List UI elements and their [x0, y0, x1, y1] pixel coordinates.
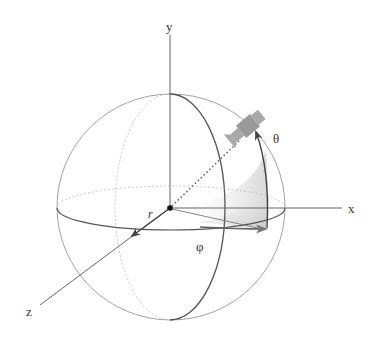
origin-point — [167, 205, 173, 211]
back-meridian — [115, 94, 170, 320]
z-axis-label: z — [26, 304, 32, 319]
radius-label: r — [148, 207, 153, 221]
satellite-icon — [224, 108, 268, 149]
y-axis-label: y — [166, 19, 173, 34]
x-axis-label: x — [348, 201, 355, 216]
spherical-coordinates-diagram: y x z r φ θ — [0, 0, 372, 340]
theta-label: θ — [273, 131, 279, 146]
phi-label: φ — [196, 239, 204, 254]
